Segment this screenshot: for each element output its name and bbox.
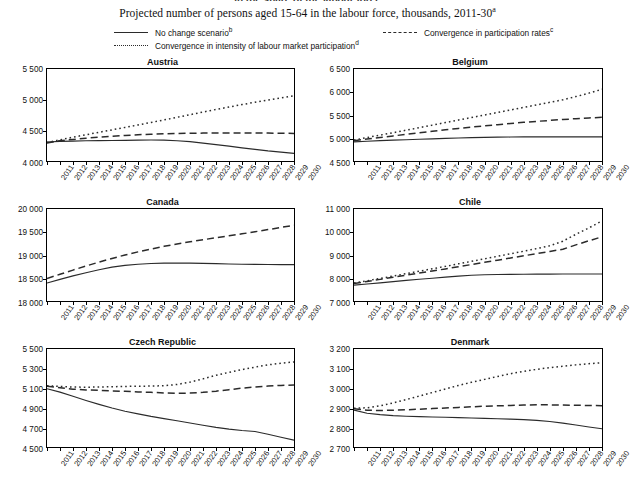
x-tick-label: 2011 xyxy=(366,303,383,322)
x-tick-label: 2027 xyxy=(575,449,592,468)
y-tick-mark xyxy=(350,256,354,257)
chart-panel-austria: Austria4 0004 5005 0005 5002011201220132… xyxy=(0,56,307,196)
x-tick-label: 2024 xyxy=(536,449,553,468)
plot-area-belgium: 4 5005 0005 5006 0006 500201120122013201… xyxy=(353,68,603,162)
x-tick-label: 2024 xyxy=(536,303,553,322)
y-tick-mark xyxy=(43,256,47,257)
chart-panel-belgium: Belgium4 5005 0005 5006 0006 50020112012… xyxy=(307,56,615,196)
x-tick-label: 2023 xyxy=(523,303,540,322)
x-tick-mark xyxy=(485,161,486,165)
x-tick-mark xyxy=(138,447,139,451)
y-tick-mark xyxy=(43,409,47,410)
y-tick-label: 8 000 xyxy=(330,275,351,284)
y-tick-mark xyxy=(43,100,47,101)
x-tick-mark xyxy=(445,301,446,305)
x-tick-mark xyxy=(498,161,499,165)
y-tick-label: 5 300 xyxy=(23,364,44,373)
y-tick-label: 2 800 xyxy=(330,424,351,433)
y-tick-mark xyxy=(43,389,47,390)
x-tick-mark xyxy=(138,161,139,165)
x-tick-mark xyxy=(73,161,74,165)
x-tick-mark xyxy=(203,447,204,451)
x-tick-mark xyxy=(47,301,48,305)
y-tick-label: 19 000 xyxy=(18,251,43,260)
x-tick-mark xyxy=(432,161,433,165)
x-tick-mark xyxy=(406,447,407,451)
x-tick-label: 2027 xyxy=(575,303,592,322)
x-tick-mark xyxy=(164,301,165,305)
x-tick-mark xyxy=(190,161,191,165)
y-tick-label: 9 000 xyxy=(330,251,351,260)
x-tick-mark xyxy=(151,447,152,451)
x-tick-label: 2022 xyxy=(510,163,527,182)
x-tick-label: 2024 xyxy=(536,163,553,182)
x-tick-label: 2021 xyxy=(497,163,514,182)
x-tick-mark xyxy=(524,161,525,165)
x-axis-canada: 2011201220132014201520162017201820192020… xyxy=(47,301,294,335)
x-tick-mark xyxy=(73,301,74,305)
series-line-no-change-scenario xyxy=(47,389,294,440)
x-tick-mark xyxy=(294,447,295,451)
x-tick-label: 2023 xyxy=(523,163,540,182)
x-tick-mark xyxy=(86,447,87,451)
x-tick-mark xyxy=(563,301,564,305)
x-tick-mark xyxy=(380,161,381,165)
y-tick-label: 5 100 xyxy=(23,384,44,393)
series-line-convergence-in-participation-rates xyxy=(47,385,294,393)
x-tick-mark xyxy=(216,161,217,165)
x-tick-mark xyxy=(537,301,538,305)
series-line-convergence-in-intensity-of-labour-market-participation xyxy=(354,89,602,140)
x-tick-mark xyxy=(419,447,420,451)
x-tick-mark xyxy=(216,301,217,305)
figure-subtitle-text: Projected number of persons aged 15-64 i… xyxy=(119,7,492,19)
x-tick-mark xyxy=(99,161,100,165)
x-tick-mark xyxy=(485,447,486,451)
x-tick-mark xyxy=(380,447,381,451)
plot-area-chile: 7 0008 0009 00010 00011 0002011201220132… xyxy=(353,208,603,302)
x-tick-mark xyxy=(203,161,204,165)
x-tick-mark xyxy=(367,161,368,165)
x-tick-mark xyxy=(498,447,499,451)
y-tick-label: 18 000 xyxy=(18,298,43,307)
y-tick-mark xyxy=(350,116,354,117)
x-tick-mark xyxy=(458,447,459,451)
y-tick-mark xyxy=(43,429,47,430)
y-tick-label: 7 000 xyxy=(330,298,351,307)
series-line-convergence-in-participation-rates xyxy=(354,405,602,411)
series-line-no-change-scenario xyxy=(47,140,294,153)
x-tick-mark xyxy=(242,301,243,305)
x-tick-label: 2030 xyxy=(614,163,631,182)
x-tick-mark xyxy=(589,301,590,305)
x-tick-label: 2029 xyxy=(601,303,618,322)
x-tick-mark xyxy=(281,301,282,305)
legend-label-0: No change scenariob xyxy=(155,26,232,38)
x-axis-austria: 2011201220132014201520162017201820192020… xyxy=(47,161,294,195)
y-tick-label: 5 500 xyxy=(23,64,44,73)
x-tick-mark xyxy=(112,161,113,165)
x-tick-mark xyxy=(576,301,577,305)
y-tick-label: 3 100 xyxy=(330,364,351,373)
x-tick-label: 2026 xyxy=(562,163,579,182)
x-tick-mark xyxy=(73,447,74,451)
x-tick-mark xyxy=(537,447,538,451)
y-tick-label: 3 000 xyxy=(330,384,351,393)
y-tick-label: 2 900 xyxy=(330,404,351,413)
series-line-convergence-in-intensity-of-labour-market-participation xyxy=(47,96,294,143)
y-tick-mark xyxy=(350,232,354,233)
y-tick-label: 19 500 xyxy=(18,228,43,237)
x-tick-mark xyxy=(589,161,590,165)
x-tick-mark xyxy=(255,301,256,305)
plot-box-austria: 4 0004 5005 0005 50020112012201320142015… xyxy=(46,68,295,162)
x-tick-mark xyxy=(524,447,525,451)
x-tick-mark xyxy=(229,301,230,305)
x-tick-mark xyxy=(268,301,269,305)
plot-area-canada: 18 00018 50019 00019 50020 0002011201220… xyxy=(46,208,295,302)
x-tick-mark xyxy=(354,447,355,451)
x-tick-mark xyxy=(537,161,538,165)
x-tick-mark xyxy=(164,447,165,451)
x-tick-mark xyxy=(86,301,87,305)
legend: No change scenariob Convergence in parti… xyxy=(0,26,615,54)
x-tick-mark xyxy=(393,161,394,165)
x-tick-mark xyxy=(268,447,269,451)
y-tick-label: 4 500 xyxy=(330,158,351,167)
